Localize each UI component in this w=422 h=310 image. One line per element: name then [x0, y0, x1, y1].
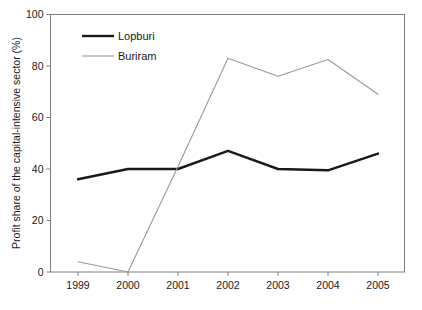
x-tick-label: 2003 — [266, 279, 290, 291]
y-axis: 020406080100 — [26, 8, 51, 278]
y-axis-title: Profit share of the capital-intensive se… — [10, 37, 22, 249]
x-tick-label: 2002 — [216, 279, 240, 291]
plot-area-frame — [51, 15, 405, 273]
x-tick-label: 2000 — [116, 279, 140, 291]
y-tick-label: 20 — [32, 214, 44, 226]
legend-label-lopburi: Lopburi — [118, 30, 155, 42]
x-axis: 1999200020012002200320042005 — [66, 272, 390, 291]
y-tick-label: 40 — [32, 163, 44, 175]
y-tick-label: 80 — [32, 60, 44, 72]
legend-label-buriram: Buriram — [118, 50, 157, 62]
y-tick-label: 100 — [26, 8, 44, 20]
chart-figure: 020406080100 199920002001200220032004200… — [0, 0, 422, 310]
line-chart: 020406080100 199920002001200220032004200… — [0, 0, 422, 310]
y-tick-label: 60 — [32, 111, 44, 123]
x-tick-label: 2004 — [316, 279, 340, 291]
x-tick-label: 2001 — [166, 279, 190, 291]
x-tick-label: 1999 — [66, 279, 90, 291]
x-tick-label: 2005 — [366, 279, 390, 291]
y-tick-label: 0 — [38, 266, 44, 278]
